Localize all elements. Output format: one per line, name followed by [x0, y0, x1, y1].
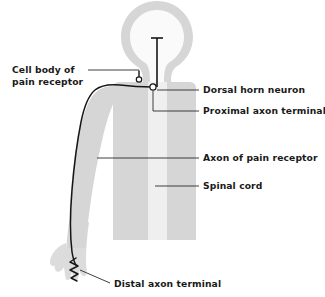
- diagram-canvas: Cell body of pain receptor Dorsal horn n…: [0, 0, 325, 297]
- label-proximal-axon-terminal: Proximal axon terminal: [203, 105, 325, 116]
- leader-cell-body: [88, 70, 139, 77]
- pain-receptor-diagram: Cell body of pain receptor Dorsal horn n…: [0, 0, 325, 297]
- spinal-cord-strip: [148, 82, 167, 240]
- body-silhouette: [50, 1, 196, 281]
- label-distal-axon-terminal: Distal axon terminal: [114, 278, 221, 289]
- label-spinal-cord: Spinal cord: [203, 180, 262, 191]
- label-dorsal-horn-neuron: Dorsal horn neuron: [203, 84, 305, 95]
- cell-body-circle: [136, 77, 141, 82]
- label-cell-body-line2: pain receptor: [12, 76, 84, 87]
- label-axon-of-pain-receptor: Axon of pain receptor: [203, 152, 318, 163]
- dorsal-horn-circle: [150, 84, 156, 90]
- leader-distal-axon: [80, 270, 110, 283]
- label-cell-body-line1: Cell body of: [12, 64, 76, 75]
